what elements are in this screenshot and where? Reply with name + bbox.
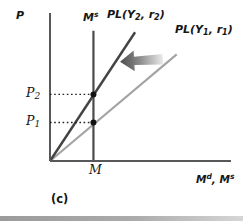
p1-tick-label: P1	[26, 115, 40, 129]
ms-sup: s	[94, 10, 98, 19]
equilibrium-point-2	[90, 91, 96, 97]
x-axis-b: , M	[212, 173, 230, 185]
pl1-b: , r	[209, 23, 222, 36]
p2-tick-label: P2	[26, 87, 40, 101]
pl1-curve-label: PL(Y1, r1)	[175, 24, 233, 37]
x-axis-label: Md, Ms	[196, 173, 234, 185]
panel-label-text: (c)	[51, 192, 68, 206]
pl1-a: PL(Y	[175, 23, 203, 36]
panel-label: (c)	[51, 194, 68, 206]
y-axis-label: P	[16, 10, 24, 21]
equilibrium-point-1	[90, 120, 96, 126]
m-tick-text: M	[89, 162, 102, 177]
pl2-curve-label: PL(Y2, r2)	[107, 9, 165, 22]
y-axis-label-text: P	[16, 9, 24, 22]
pl2-a: PL(Y	[107, 8, 135, 21]
p1-sub: 1	[34, 119, 40, 129]
p2-sub: 2	[34, 91, 40, 101]
m-tick-label: M	[89, 164, 102, 177]
x-axis-a: M	[196, 173, 206, 185]
ms-base: M	[83, 11, 94, 24]
money-market-diagram: P Ms PL(Y2, r2) PL(Y1, r1) P2 P1 M Md, M…	[0, 0, 243, 224]
money-supply-label: Ms	[83, 11, 98, 23]
pl-y1-r1-line	[50, 54, 177, 161]
bottom-divider-bar	[0, 216, 243, 221]
pl2-c: )	[160, 8, 165, 21]
x-axis-sup2: s	[230, 172, 234, 181]
pl1-c: )	[228, 23, 233, 36]
pl2-b: , r	[141, 8, 154, 21]
